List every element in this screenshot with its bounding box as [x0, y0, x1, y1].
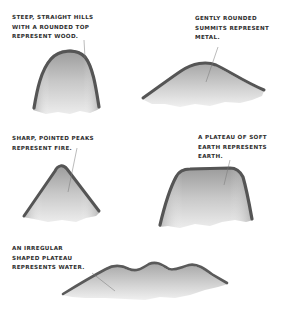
- wood-label-line-3: REPRESENT WOOD.: [12, 32, 94, 42]
- metal-label-line-3: METAL.: [195, 33, 269, 43]
- fire-label-line-2: REPRESENT FIRE.: [12, 144, 94, 154]
- earth-label-line-2: EARTH REPRESENTS: [198, 143, 267, 153]
- earth-label-line-3: EARTH.: [198, 152, 267, 162]
- water-label: AN IRREGULAR SHAPED PLATEAU REPRESENTS W…: [12, 244, 85, 273]
- fire-label: SHARP, POINTED PEAKS REPRESENT FIRE.: [12, 134, 94, 153]
- water-mountain: [62, 263, 228, 300]
- fire-mountain: [23, 148, 100, 222]
- earth-label: A PLATEAU OF SOFT EARTH REPRESENTS EARTH…: [198, 133, 267, 162]
- mountain-illustrations: [0, 0, 285, 326]
- metal-label-line-2: SUMMITS REPRESENT: [195, 24, 269, 34]
- wood-label-line-2: WITH A ROUNDED TOP: [12, 23, 94, 33]
- wood-label-line-1: STEEP, STRAIGHT HILLS: [12, 13, 94, 23]
- water-label-line-1: AN IRREGULAR: [12, 244, 85, 254]
- fire-label-line-1: SHARP, POINTED PEAKS: [12, 134, 94, 144]
- wood-mountain: [33, 40, 100, 114]
- wood-label: STEEP, STRAIGHT HILLS WITH A ROUNDED TOP…: [12, 13, 94, 42]
- earth-mountain: [159, 160, 253, 228]
- metal-label: GENTLY ROUNDED SUMMITS REPRESENT METAL.: [195, 14, 269, 43]
- water-label-line-3: REPRESENTS WATER.: [12, 263, 85, 273]
- metal-mountain: [142, 47, 264, 107]
- water-label-line-2: SHAPED PLATEAU: [12, 254, 85, 264]
- metal-label-line-1: GENTLY ROUNDED: [195, 14, 269, 24]
- earth-label-line-1: A PLATEAU OF SOFT: [198, 133, 267, 143]
